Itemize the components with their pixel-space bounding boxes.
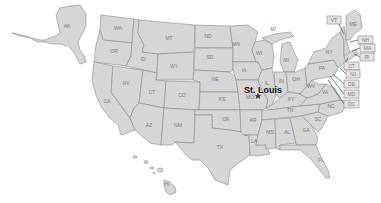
svg-text:RI: RI [365, 54, 370, 60]
svg-text:NM: NM [174, 122, 182, 128]
svg-text:CA: CA [104, 98, 112, 104]
svg-text:SC: SC [315, 116, 322, 122]
svg-text:AR: AR [250, 117, 257, 123]
svg-text:DC: DC [348, 101, 356, 107]
svg-text:WI: WI [256, 50, 262, 56]
svg-text:OR: OR [110, 48, 118, 54]
svg-text:NY: NY [326, 49, 334, 55]
state-ia[interactable] [233, 62, 262, 80]
svg-text:AK: AK [64, 23, 71, 29]
svg-text:NV: NV [123, 80, 131, 86]
svg-text:ME: ME [349, 21, 357, 27]
svg-text:OK: OK [222, 116, 230, 122]
state-hi[interactable] [133, 156, 176, 195]
svg-text:VA: VA [322, 89, 329, 95]
svg-text:SD: SD [207, 54, 214, 60]
svg-text:TX: TX [217, 144, 224, 150]
svg-text:CO: CO [178, 92, 186, 98]
svg-text:TN: TN [287, 107, 294, 113]
svg-text:MT: MT [165, 35, 172, 41]
svg-text:FL: FL [318, 157, 324, 163]
svg-text:WV: WV [307, 83, 316, 89]
svg-text:UT: UT [149, 89, 156, 95]
svg-text:NC: NC [327, 103, 335, 109]
svg-text:LA: LA [251, 138, 258, 144]
svg-text:IN: IN [279, 78, 284, 84]
svg-text:NE: NE [212, 76, 220, 82]
svg-text:AL: AL [284, 129, 290, 135]
svg-text:DE: DE [348, 81, 356, 87]
svg-text:OH: OH [292, 76, 300, 82]
svg-text:KS: KS [219, 96, 226, 102]
svg-text:NJ: NJ [350, 71, 357, 77]
svg-text:MI: MI [283, 57, 289, 63]
state-nd[interactable] [195, 25, 233, 48]
svg-text:WY: WY [170, 63, 179, 69]
svg-text:MD: MD [348, 91, 356, 97]
callout-nh[interactable]: NH [350, 36, 373, 44]
svg-text:AZ: AZ [146, 122, 152, 128]
svg-text:MN: MN [232, 41, 240, 47]
svg-text:NH: NH [362, 37, 370, 43]
svg-text:IA: IA [242, 67, 247, 73]
city-label: St. Louis [244, 85, 282, 95]
state-ak[interactable] [12, 5, 86, 64]
svg-text:MS: MS [266, 129, 274, 135]
svg-text:MA: MA [364, 45, 372, 51]
svg-text:PA: PA [319, 65, 326, 71]
svg-text:HI: HI [165, 181, 170, 187]
state-sd[interactable] [194, 48, 233, 72]
svg-text:GA: GA [302, 127, 310, 133]
svg-text:VT: VT [331, 17, 337, 23]
svg-text:ND: ND [204, 33, 212, 39]
svg-text:MI: MI [270, 26, 276, 32]
svg-text:KY: KY [288, 96, 295, 102]
svg-text:ID: ID [141, 56, 146, 62]
svg-text:CT: CT [348, 63, 355, 69]
svg-text:WA: WA [114, 25, 123, 31]
us-state-map: AK HI WA OR CA NV ID MT WY UT CO AZ NM N… [0, 0, 381, 203]
